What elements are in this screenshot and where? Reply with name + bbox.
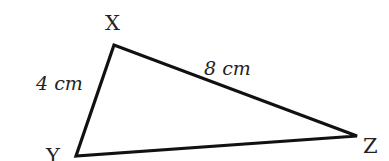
vertex-label-y: Y [45,144,61,161]
triangle-diagram: X Y Z 4 cm 8 cm [0,0,389,161]
side-label-xz: 8 cm [204,57,251,79]
side-label-xy: 4 cm [35,72,83,94]
vertex-label-z: Z [363,134,378,158]
vertex-label-x: X [105,11,120,35]
